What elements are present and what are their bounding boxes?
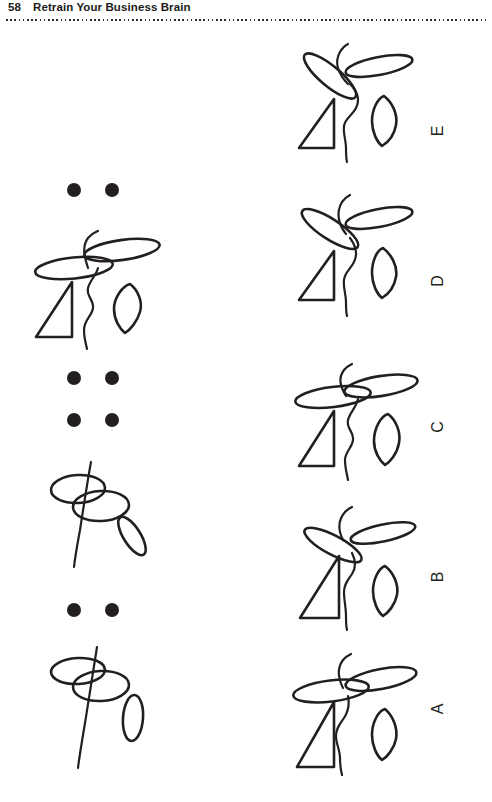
page-header: 58 Retrain Your Business Brain [0,0,492,26]
triangle-icon [297,702,334,767]
dot [67,183,81,197]
dot [105,413,119,427]
leaf-icon [372,248,396,298]
leaf-icon [114,284,141,333]
leaf-icon [373,566,397,616]
option-c-letter: C [429,417,447,437]
option-a-letter: A [429,699,447,719]
ellipse-lower-icon [72,670,129,703]
triangle-icon [299,411,334,466]
stem-line-icon [78,647,97,768]
ellipse-right-icon [344,203,414,234]
small-vertical-ellipse-icon [121,694,144,741]
triangle-icon [299,251,334,300]
dot-separator [67,603,119,617]
dot [67,603,81,617]
dot [67,413,81,427]
sequence-figure-1 [26,224,176,354]
antenna-curve-icon [340,364,352,396]
ellipse-right-icon [344,51,414,82]
puzzle-area: E D C B [0,26,492,802]
leaf-icon [374,414,399,465]
leaf-icon [372,96,396,146]
ellipse-left-icon [34,253,114,282]
dot [67,371,81,385]
option-b-letter: B [429,567,447,587]
squiggle-body-icon [336,696,349,775]
squiggle-body-icon [345,399,358,480]
triangle-icon [299,99,334,148]
triangle-icon [300,556,339,618]
option-c-figure[interactable] [288,364,418,484]
ellipse-right-icon [349,518,417,548]
option-b-figure[interactable] [288,508,418,628]
option-d-letter: D [429,271,447,291]
squiggle-body-icon [344,553,355,630]
dot [105,371,119,385]
sequence-figure-2 [36,454,166,574]
dot-separator [67,371,119,385]
leaf-icon [372,709,396,760]
option-a-figure[interactable] [288,654,418,779]
sequence-figure-3 [36,641,166,771]
option-d-figure[interactable] [288,196,418,316]
dot [105,603,119,617]
option-e-figure[interactable] [288,44,418,164]
header-dotted-rule [6,19,488,21]
small-slanted-ellipse-icon [113,513,151,559]
running-title: Retrain Your Business Brain [33,1,191,13]
dot [105,183,119,197]
dot-separator [67,183,119,197]
ellipse-right-icon [83,235,161,265]
antenna-curve-icon [339,507,352,540]
dot-separator [67,413,119,427]
option-e-letter: E [429,121,447,141]
page-number: 58 [8,1,21,13]
squiggle-body-icon [84,268,98,349]
triangle-icon [36,282,72,337]
